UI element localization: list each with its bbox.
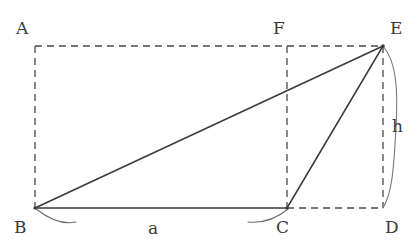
diagram-canvas: A F E B a C D h xyxy=(0,0,420,249)
vertex-point-E xyxy=(381,44,385,48)
segment-CE-solid xyxy=(287,46,383,208)
vertex-label-A: A xyxy=(16,20,28,37)
vertex-label-E: E xyxy=(390,20,402,37)
vertex-label-C: C xyxy=(276,219,289,236)
vertex-label-B: B xyxy=(14,219,27,236)
side-label-h: h xyxy=(392,118,403,135)
vertex-label-D: D xyxy=(385,219,399,236)
segment-BE-solid xyxy=(35,46,383,208)
vertex-label-F: F xyxy=(273,20,285,37)
geometry-figure xyxy=(0,0,420,249)
side-label-a: a xyxy=(148,220,158,237)
vertex-point-C xyxy=(285,206,288,209)
angle-arc-at-B xyxy=(36,209,76,223)
vertex-point-B xyxy=(33,206,36,209)
